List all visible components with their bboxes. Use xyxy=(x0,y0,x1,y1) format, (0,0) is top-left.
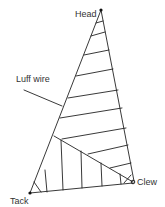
seam xyxy=(68,90,118,98)
leech-edge xyxy=(101,10,134,181)
seam xyxy=(110,163,131,168)
seam xyxy=(91,32,105,36)
clew-patch xyxy=(124,175,131,183)
head-point xyxy=(99,8,102,11)
diagonal-seam xyxy=(54,136,133,182)
seam xyxy=(45,170,47,192)
seam xyxy=(120,174,121,184)
luff-wire-pointer xyxy=(24,90,62,106)
seam xyxy=(81,151,82,188)
seam xyxy=(60,108,122,118)
label-head: Head xyxy=(75,9,97,19)
seam xyxy=(62,128,126,139)
seam xyxy=(88,145,128,154)
tack-patch xyxy=(34,182,41,192)
seam xyxy=(84,50,109,55)
tack-point xyxy=(28,191,31,194)
luff-edge xyxy=(30,10,101,193)
label-clew: Clew xyxy=(137,177,158,187)
seam xyxy=(101,163,102,186)
label-luff-wire: Luff wire xyxy=(16,74,50,84)
sail-diagram: Head Luff wire Clew Tack xyxy=(0,0,165,207)
label-tack: Tack xyxy=(10,196,29,206)
seam xyxy=(61,140,63,190)
seam xyxy=(76,69,113,76)
